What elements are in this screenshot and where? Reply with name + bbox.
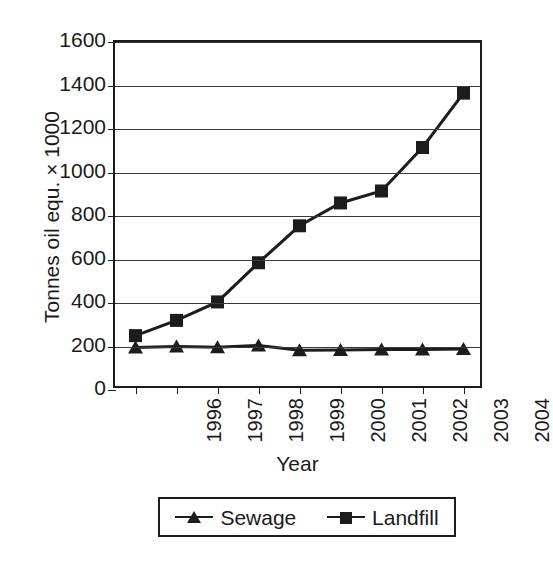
- y-axis-tick-mark: [108, 86, 116, 87]
- x-axis-tick-mark: [259, 386, 260, 394]
- data-point-square-marker: [211, 295, 224, 308]
- triangle-marker: [187, 511, 201, 523]
- y-axis-tick-label: 1600: [40, 29, 106, 50]
- y-axis-tick-mark: [108, 303, 116, 304]
- x-axis-tick-label: 1997: [245, 398, 265, 458]
- x-axis-tick-label: 2000: [368, 398, 388, 458]
- x-axis-tick-mark: [341, 386, 342, 394]
- y-axis-tick-labels: 02004006008001000120014001600: [36, 0, 106, 570]
- x-axis-tick-label: 2001: [409, 398, 429, 458]
- y-axis-tick-mark: [108, 347, 116, 348]
- gridline: [115, 42, 480, 43]
- data-point-square-marker: [334, 196, 347, 209]
- y-axis-tick-mark: [108, 42, 116, 43]
- x-axis-tick-mark: [136, 386, 137, 394]
- data-point-square-marker: [293, 219, 306, 232]
- y-axis-tick-label: 0: [40, 377, 106, 398]
- y-axis-tick-label: 1000: [40, 160, 106, 181]
- legend-label: Sewage: [220, 507, 296, 528]
- x-axis-tick-mark: [464, 386, 465, 394]
- plot-area: [113, 40, 482, 388]
- y-axis-tick-label: 200: [40, 334, 106, 355]
- y-axis-tick-mark: [108, 129, 116, 130]
- gridline: [115, 260, 480, 261]
- x-axis-tick-label: 1999: [327, 398, 347, 458]
- y-axis-tick-mark: [108, 216, 116, 217]
- legend-label: Landfill: [372, 507, 439, 528]
- x-axis-tick-mark: [382, 386, 383, 394]
- data-point-square-marker: [416, 141, 429, 154]
- triangle-marker-icon: [175, 509, 213, 525]
- y-axis-tick-label: 800: [40, 203, 106, 224]
- y-axis-tick-mark: [108, 260, 116, 261]
- y-axis-tick-label: 400: [40, 290, 106, 311]
- square-marker: [340, 512, 352, 524]
- y-axis-tick-label: 600: [40, 247, 106, 268]
- x-axis-tick-label: 1998: [286, 398, 306, 458]
- x-axis-tick-mark: [177, 386, 178, 394]
- gridline: [115, 129, 480, 130]
- data-point-square-marker: [252, 256, 265, 269]
- gridline: [115, 347, 480, 348]
- x-axis-tick-mark: [218, 386, 219, 394]
- y-axis-tick-mark: [108, 173, 116, 174]
- x-axis-tick-label: 2002: [450, 398, 470, 458]
- gridline: [115, 303, 480, 304]
- x-axis-tick-label: 2004: [532, 398, 552, 458]
- data-point-square-marker: [457, 87, 470, 100]
- x-axis-tick-label: 1996: [204, 398, 224, 458]
- chart-legend: SewageLandfill: [158, 497, 456, 537]
- legend-entry-landfill[interactable]: Landfill: [327, 507, 439, 528]
- square-marker-icon: [327, 509, 365, 525]
- x-axis-tick-label: 2003: [491, 398, 511, 458]
- x-axis-tick-mark: [423, 386, 424, 394]
- data-point-square-marker: [375, 184, 388, 197]
- data-point-square-marker: [170, 314, 183, 327]
- data-point-square-marker: [129, 329, 142, 342]
- y-axis-tick-mark: [108, 390, 116, 391]
- gridline: [115, 173, 480, 174]
- x-axis-tick-mark: [300, 386, 301, 394]
- x-axis-title: Year: [113, 452, 482, 476]
- gridline: [115, 86, 480, 87]
- y-axis-tick-label: 1400: [40, 73, 106, 94]
- legend-entry-sewage[interactable]: Sewage: [175, 507, 296, 528]
- gridline: [115, 216, 480, 217]
- y-axis-tick-label: 1200: [40, 116, 106, 137]
